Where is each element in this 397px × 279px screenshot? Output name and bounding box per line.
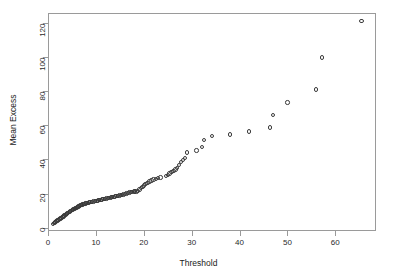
x-axis-tick-label: 10 bbox=[81, 238, 111, 247]
y-axis-tick-label: 120 bbox=[38, 23, 47, 63]
data-point bbox=[183, 156, 187, 160]
mean-excess-plot-figure: 020406080100120 0102030405060 Mean Exces… bbox=[0, 0, 397, 279]
x-axis-tick-label: 0 bbox=[33, 238, 63, 247]
scatter-data-layer bbox=[48, 13, 376, 231]
x-axis-tick bbox=[240, 231, 241, 236]
x-axis-tick-label: 50 bbox=[272, 238, 302, 247]
data-point bbox=[228, 132, 232, 136]
data-point bbox=[194, 148, 198, 152]
x-axis-tick bbox=[335, 231, 336, 236]
x-axis-tick-label: 60 bbox=[320, 238, 350, 247]
y-axis-tick-label: 20 bbox=[38, 194, 47, 234]
x-axis-tick bbox=[144, 231, 145, 236]
data-point bbox=[247, 129, 251, 133]
x-axis-tick-label: 30 bbox=[177, 238, 207, 247]
y-axis-title: Mean Excess bbox=[6, 60, 20, 180]
data-point bbox=[210, 134, 214, 138]
data-point bbox=[320, 55, 324, 59]
data-point bbox=[285, 100, 289, 104]
data-point bbox=[202, 138, 206, 142]
x-axis-tick-label: 20 bbox=[129, 238, 159, 247]
x-axis-tick bbox=[96, 231, 97, 236]
data-point bbox=[158, 175, 162, 179]
y-axis-title-text: Mean Excess bbox=[8, 94, 18, 145]
x-axis-tick bbox=[287, 231, 288, 236]
x-axis-tick bbox=[192, 231, 193, 236]
x-axis-tick-label: 40 bbox=[225, 238, 255, 247]
data-point bbox=[359, 19, 363, 23]
data-point bbox=[314, 87, 318, 91]
data-point bbox=[185, 150, 189, 154]
data-point bbox=[268, 125, 272, 129]
data-point bbox=[200, 145, 204, 149]
data-point bbox=[271, 113, 275, 117]
x-axis-title: Threshold bbox=[0, 258, 397, 268]
x-axis-tick bbox=[48, 231, 49, 236]
